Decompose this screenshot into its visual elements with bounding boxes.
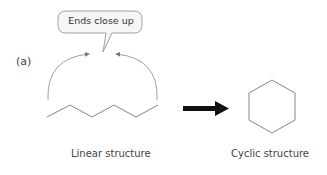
reaction-arrow-icon [183,101,229,116]
left-curved-arrow-icon [48,54,89,100]
callout-text: Ends close up [60,15,142,26]
right-curved-arrow-icon [116,54,157,100]
linear-chain [47,105,158,117]
linear-structure-label: Linear structure [71,148,151,159]
hexagon-ring [249,80,295,133]
panel-label: (a) [16,55,31,68]
cyclic-structure-label: Cyclic structure [231,148,309,159]
diagram-linear-to-cyclic: Ends close up (a) Linear structure Cycli… [0,0,327,175]
